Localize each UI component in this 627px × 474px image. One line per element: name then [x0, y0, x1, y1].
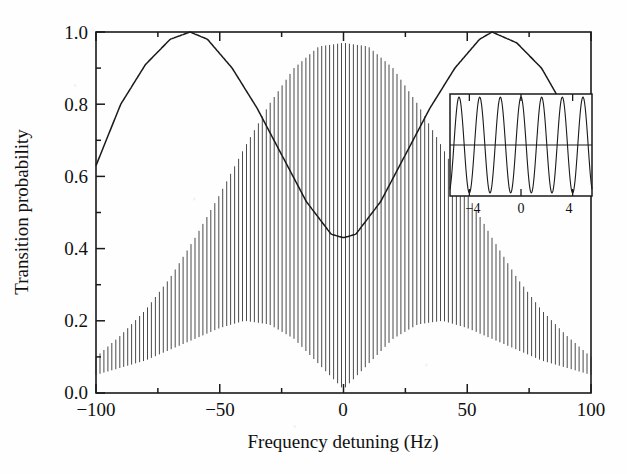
figure-container: −100 −50 0 50 100 0.0 0.2 0.4 0.6 0.8 1.…	[0, 0, 627, 474]
inset-ticklabel-neg4: −4	[466, 201, 481, 216]
y-ticklabel-04: 0.4	[64, 238, 88, 259]
y-axis-label: Transition probability	[11, 129, 32, 295]
x-axis-label: Frequency detuning (Hz)	[248, 431, 439, 453]
inset-ticklabel-4: 4	[566, 201, 573, 216]
x-ticklabel-50: 50	[458, 399, 477, 420]
y-ticklabel-00: 0.0	[64, 382, 88, 403]
y-ticklabel-10: 1.0	[64, 22, 88, 43]
inset-ticklabel-0: 0	[518, 201, 525, 216]
y-ticklabel-02: 0.2	[64, 310, 88, 331]
x-ticklabel-0: 0	[338, 399, 348, 420]
ramsey-fringes-chart: −100 −50 0 50 100 0.0 0.2 0.4 0.6 0.8 1.…	[0, 0, 627, 474]
y-ticklabel-06: 0.6	[64, 166, 88, 187]
y-ticklabel-08: 0.8	[64, 94, 88, 115]
x-ticklabel-100: 100	[577, 399, 606, 420]
y-axis-ticks	[96, 32, 105, 393]
x-ticklabel-neg50: −50	[205, 399, 235, 420]
inset-axes: −4 0 4	[450, 94, 592, 216]
